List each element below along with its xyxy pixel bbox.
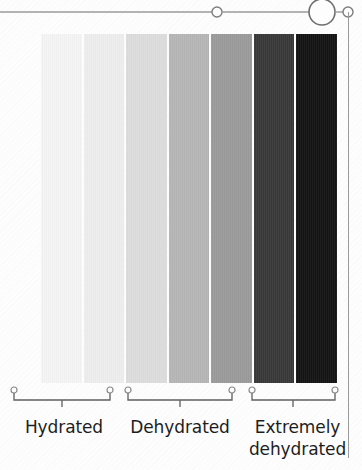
colour-band-1[interactable] bbox=[41, 34, 82, 383]
top-connector-rule bbox=[0, 0, 362, 34]
large-node-icon bbox=[309, 0, 335, 25]
group-brackets bbox=[0, 386, 362, 412]
group-labels: Hydrated Dehydrated Extremely dehydrated bbox=[0, 414, 362, 470]
label-extremely-dehydrated: Extremely dehydrated bbox=[239, 416, 356, 460]
label-extremely-line2: dehydrated bbox=[239, 438, 356, 460]
bracket-hydrated bbox=[11, 387, 113, 407]
bracket-end-circle-left-icon bbox=[249, 387, 255, 393]
bracket-end-circle-left-icon bbox=[125, 387, 131, 393]
colour-band-5[interactable] bbox=[211, 34, 252, 383]
colour-band-6[interactable] bbox=[254, 34, 295, 383]
bracket-path bbox=[128, 393, 232, 400]
bracket-extremely-dehydrated bbox=[249, 387, 338, 407]
label-dehydrated: Dehydrated bbox=[123, 416, 237, 438]
colour-band-7[interactable] bbox=[296, 34, 337, 383]
bracket-end-circle-right-icon bbox=[332, 387, 338, 393]
label-extremely-line1: Extremely bbox=[239, 416, 356, 438]
bracket-path bbox=[14, 393, 110, 400]
bracket-end-circle-right-icon bbox=[107, 387, 113, 393]
small-node-left-icon bbox=[212, 7, 222, 17]
label-hydrated: Hydrated bbox=[0, 416, 128, 438]
bracket-dehydrated bbox=[125, 387, 235, 407]
colour-scale-strip bbox=[41, 34, 337, 383]
colour-band-3[interactable] bbox=[126, 34, 167, 383]
colour-band-2[interactable] bbox=[84, 34, 125, 383]
bracket-end-circle-left-icon bbox=[11, 387, 17, 393]
bracket-path bbox=[252, 393, 335, 400]
bracket-end-circle-right-icon bbox=[229, 387, 235, 393]
figure-canvas: Hydrated Dehydrated Extremely dehydrated bbox=[0, 0, 362, 470]
colour-band-4[interactable] bbox=[169, 34, 210, 383]
